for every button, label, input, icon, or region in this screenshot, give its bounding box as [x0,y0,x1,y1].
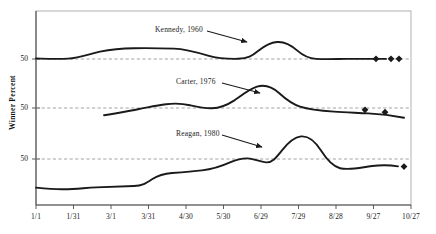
x-tick-label-8: 8/28 [322,212,350,221]
x-tick-label-9: 9/27 [360,212,388,221]
series-markers-reagan [401,163,408,170]
y-tick-label-reagan: 50 [10,154,28,163]
x-tick-label-3: 3/31 [135,212,163,221]
x-tick-label-1: 1/31 [60,212,88,221]
annotation-arrow-reagan [222,135,262,147]
chart-plot-area [0,0,436,234]
x-tick-label-4: 4/30 [172,212,200,221]
y-tick-label-carter: 50 [10,103,28,112]
x-tick-label-2: 3/1 [97,212,125,221]
series-annotation-reagan: Reagan, 1980 [176,129,220,138]
x-tick-label-6: 6/29 [247,212,275,221]
annotation-arrow-kennedy [207,31,247,42]
series-line-kennedy [36,42,386,59]
reference-line-50-group [36,59,411,159]
x-tick-label-10: 10/27 [396,212,426,221]
series-annotation-kennedy: Kennedy, 1960 [155,25,203,34]
x-axis-ticks [36,205,411,209]
chart-container: Winner Percent 50 50 50 1/1 1/31 3/1 3/3… [0,0,436,234]
series-markers-kennedy [373,55,403,62]
y-tick-label-kennedy: 50 [10,54,28,63]
series-line-carter [104,86,404,118]
x-tick-label-0: 1/1 [22,212,50,221]
x-tick-label-7: 7/29 [285,212,313,221]
series-line-reagan [36,136,398,189]
series-annotation-carter: Carter, 1976 [176,77,216,86]
x-tick-label-5: 5/30 [210,212,238,221]
